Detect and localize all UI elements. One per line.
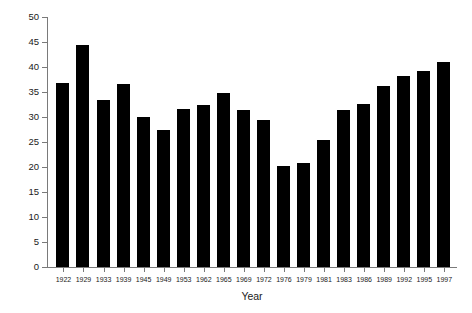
x-tick — [83, 268, 84, 272]
x-tick — [364, 268, 365, 272]
bar-chart: Percentage 05101520253035404550 19221929… — [0, 0, 472, 313]
bar-rect — [237, 110, 250, 267]
bar-rect — [177, 109, 190, 267]
x-tick — [264, 268, 265, 272]
bar-rect — [56, 83, 69, 267]
bar-rect — [137, 117, 150, 267]
x-tick — [444, 268, 445, 272]
bar-rect — [377, 86, 390, 267]
bar-rect — [397, 76, 410, 267]
bar-rect — [417, 71, 430, 267]
y-tick-label: 45 — [28, 36, 39, 47]
y-tick-label: 50 — [28, 11, 39, 22]
bar-series — [47, 17, 457, 268]
y-tick-label: 15 — [28, 186, 39, 197]
bar-rect — [257, 120, 270, 267]
x-tick — [324, 268, 325, 272]
y-tick-label: 25 — [28, 136, 39, 147]
plot-area: 05101520253035404550 1922192919331939194… — [47, 17, 457, 268]
x-tick — [244, 268, 245, 272]
y-tick-label: 0 — [34, 261, 39, 272]
bar-rect — [217, 93, 230, 267]
bar-rect — [76, 45, 89, 267]
bar-rect — [437, 62, 450, 267]
bar-rect — [357, 104, 370, 267]
x-tick — [284, 268, 285, 272]
x-tick — [204, 268, 205, 272]
x-tick — [344, 268, 345, 272]
bar-rect — [157, 130, 170, 267]
y-tick-label: 20 — [28, 161, 39, 172]
x-tick — [384, 268, 385, 272]
x-tick — [184, 268, 185, 272]
bar-rect — [297, 163, 310, 267]
bar-rect — [97, 100, 110, 267]
bar-rect — [197, 105, 210, 267]
x-tick — [164, 268, 165, 272]
x-tick — [144, 268, 145, 272]
x-tick — [124, 268, 125, 272]
x-tick — [424, 268, 425, 272]
y-tick-label: 35 — [28, 86, 39, 97]
y-tick-label: 30 — [28, 111, 39, 122]
bar-rect — [337, 110, 350, 267]
x-tick — [224, 268, 225, 272]
x-tick — [404, 268, 405, 272]
x-tick — [104, 268, 105, 272]
y-tick-label: 40 — [28, 61, 39, 72]
bar-rect — [317, 140, 330, 267]
x-axis-title: Year — [47, 290, 457, 302]
y-tick-label: 10 — [28, 211, 39, 222]
x-tick-label: 1997 — [429, 276, 459, 283]
x-tick — [63, 268, 64, 272]
x-tick — [304, 268, 305, 272]
y-tick-label: 5 — [34, 236, 39, 247]
bar-rect — [277, 166, 290, 267]
bar-rect — [117, 84, 130, 267]
